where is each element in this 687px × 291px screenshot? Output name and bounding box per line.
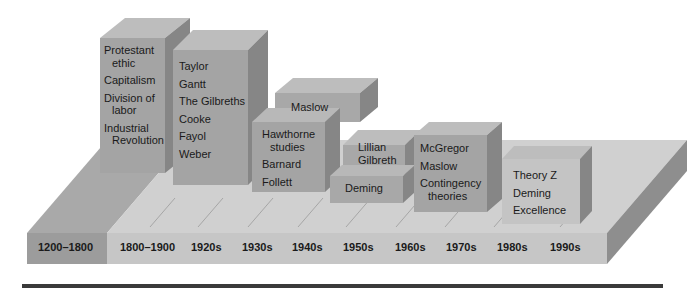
item-lillian-gilbreth-cont: Gilbreth [358, 154, 397, 166]
era-label-1930s: 1930s [242, 241, 273, 253]
item-hawthorne-studies-cont: studies [262, 141, 305, 153]
item-follett: Follett [262, 176, 315, 189]
era-label-1980s: 1980s [497, 241, 528, 253]
item-deming-1950s: Deming [345, 182, 383, 195]
block-1970s-text: McGregor Maslow Contingencytheories [420, 142, 481, 207]
item-the-gilbreths: The Gilbreths [179, 95, 245, 108]
era-label-1920s: 1920s [191, 241, 222, 253]
item-protestant-ethic-cont: ethic [104, 57, 135, 69]
era-label-1970s: 1970s [446, 241, 477, 253]
management-history-timeline: Protestantethic Capitalism Division ofla… [0, 0, 687, 291]
block-1950s-bottom-text: Deming [345, 182, 383, 200]
era-label-1800-1900: 1800–1900 [120, 241, 175, 253]
item-taylor: Taylor [179, 60, 245, 73]
item-contingency-theories: Contingency [420, 177, 481, 189]
item-contingency-theories-cont: theories [420, 190, 467, 202]
item-cooke: Cooke [179, 113, 245, 126]
item-protestant-ethic: Protestant [104, 44, 154, 56]
item-weber: Weber [179, 148, 245, 161]
block-1980s-text: Theory Z Deming Excellence [513, 169, 566, 222]
block-pre-industrial-text: Protestantethic Capitalism Division ofla… [104, 44, 164, 152]
item-division-of-labor: Division of [104, 92, 155, 104]
item-hawthorne-studies: Hawthorne [262, 128, 315, 140]
item-industrial-revolution-cont: Revolution [104, 134, 164, 146]
era-label-1990s: 1990s [550, 241, 581, 253]
block-classical-text: Taylor Gantt The Gilbreths Cooke Fayol W… [179, 60, 245, 165]
item-capitalism: Capitalism [104, 74, 155, 86]
item-barnard: Barnard [262, 158, 315, 171]
block-1950s-top-text: LillianGilbreth [358, 141, 397, 171]
bottom-rule [22, 284, 663, 288]
block-human-relations-text: Hawthornestudies Barnard Follett [262, 128, 315, 193]
era-label-1940s: 1940s [292, 241, 323, 253]
item-excellence: Excellence [513, 204, 566, 217]
era-label-1200-1800: 1200–1800 [38, 241, 93, 253]
era-label-1950s: 1950s [343, 241, 374, 253]
item-maslow-1970s: Maslow [420, 160, 481, 173]
item-maslow-1940s: Maslow [291, 101, 328, 114]
item-industrial-revolution: Industrial [104, 122, 149, 134]
block-1940s-top-text: Maslow [291, 101, 328, 119]
item-lillian-gilbreth: Lillian [358, 141, 386, 153]
item-fayol: Fayol [179, 130, 245, 143]
item-deming-1980s: Deming [513, 187, 566, 200]
item-division-of-labor-cont: labor [104, 104, 136, 116]
item-mcgregor: McGregor [420, 142, 481, 155]
era-label-1960s: 1960s [395, 241, 426, 253]
item-theory-z: Theory Z [513, 169, 566, 182]
item-gantt: Gantt [179, 78, 245, 91]
